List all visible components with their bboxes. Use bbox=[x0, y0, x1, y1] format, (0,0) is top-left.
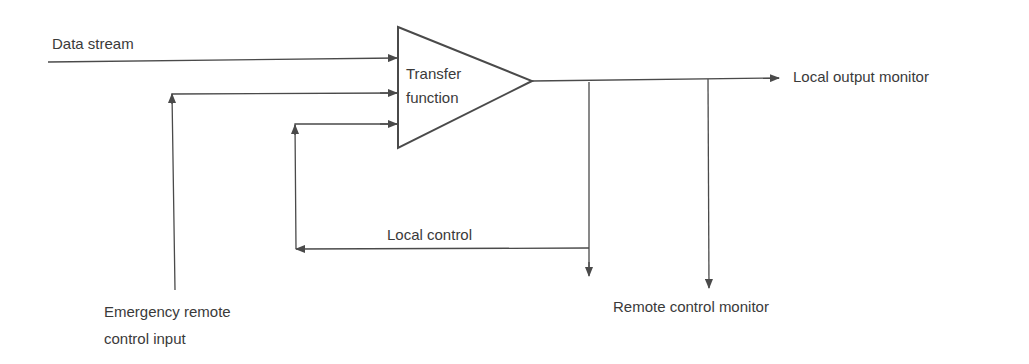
label-transfer-function-line1: Transfer bbox=[406, 64, 461, 83]
label-remote-control-monitor: Remote control monitor bbox=[613, 297, 769, 316]
local-control-return-arrow bbox=[296, 248, 589, 249]
data-stream-arrow bbox=[48, 58, 397, 62]
label-transfer-function-line2: function bbox=[406, 88, 459, 107]
emergency-input-arrow bbox=[172, 93, 397, 290]
label-emergency-line1: Emergency remote bbox=[104, 302, 231, 321]
label-local-control: Local control bbox=[387, 225, 472, 244]
label-data-stream: Data stream bbox=[52, 34, 134, 53]
label-emergency-line2: control input bbox=[104, 329, 186, 348]
remote-monitor-arrow bbox=[708, 79, 709, 288]
local-output-arrow bbox=[532, 78, 779, 81]
label-local-output-monitor: Local output monitor bbox=[793, 67, 929, 86]
